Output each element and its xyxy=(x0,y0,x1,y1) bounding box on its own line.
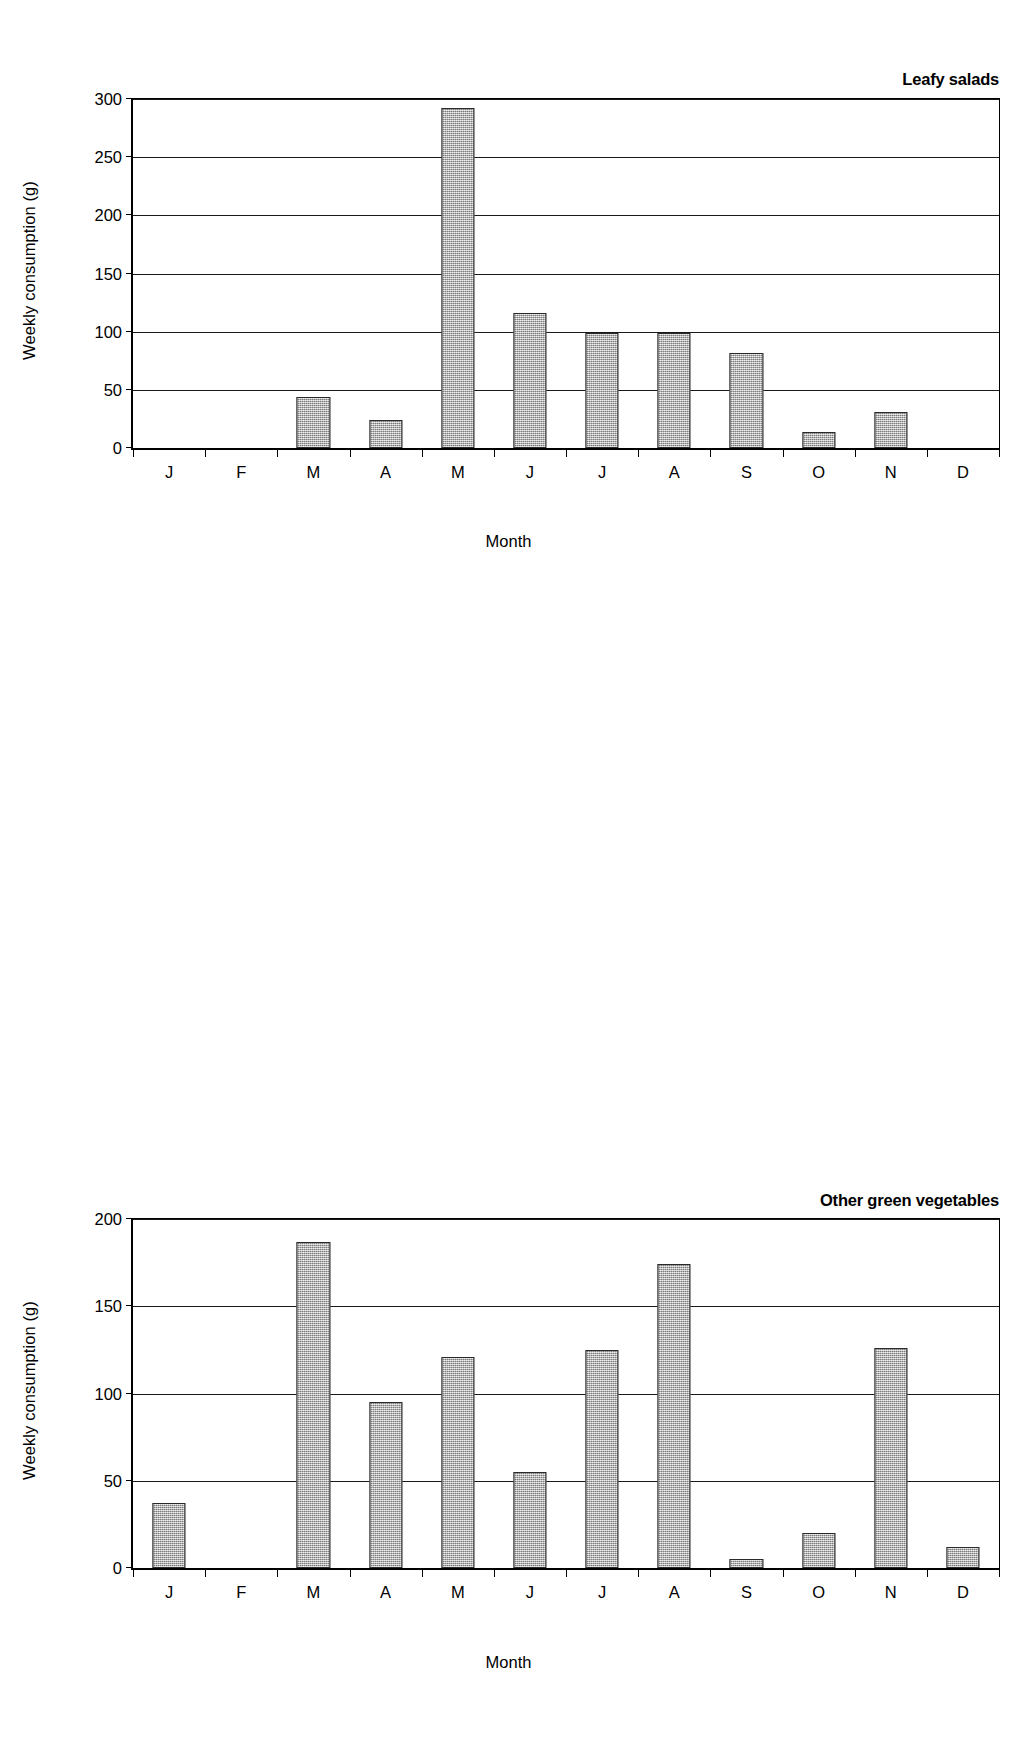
bar-slot xyxy=(566,99,638,448)
y-tick-mark xyxy=(126,447,133,448)
x-tick-label: J xyxy=(494,464,566,481)
y-tick-label: 250 xyxy=(94,149,122,166)
y-tick-mark xyxy=(126,331,133,332)
x-tick-label: O xyxy=(783,464,855,481)
y-tick-label: 150 xyxy=(94,265,122,282)
x-axis-categories: JFMAMJJASOND xyxy=(133,464,999,481)
bar[interactable] xyxy=(441,108,474,448)
x-tick-mark xyxy=(205,448,206,457)
x-tick-label: M xyxy=(422,464,494,481)
x-tick-mark xyxy=(422,448,423,457)
bar[interactable] xyxy=(297,397,330,448)
figure-page: Leafy salads Weekly consumption (g) 0501… xyxy=(0,0,1017,1738)
x-tick-label: N xyxy=(855,464,927,481)
x-tick-label: J xyxy=(566,464,638,481)
plot-area: 050100150200250300JFMAMJJASOND xyxy=(131,98,1000,450)
x-tick-label: S xyxy=(710,464,782,481)
bar[interactable] xyxy=(369,420,402,448)
chart-title: Leafy salads xyxy=(902,70,999,89)
x-tick-mark xyxy=(277,448,278,457)
bar-slot xyxy=(133,99,205,448)
bar-slot xyxy=(638,99,710,448)
x-tick-label: D xyxy=(927,464,999,481)
bar-slot xyxy=(494,99,566,448)
chart-leafy-salads: Leafy salads Weekly consumption (g) 0501… xyxy=(0,0,1017,565)
bar[interactable] xyxy=(513,313,546,448)
y-axis-label: Weekly consumption (g) xyxy=(14,95,44,445)
bar-slot xyxy=(350,99,422,448)
bar[interactable] xyxy=(586,333,619,448)
x-axis-label: Month xyxy=(0,532,1017,551)
x-tick-mark xyxy=(783,448,784,457)
x-tick-mark xyxy=(494,448,495,457)
y-tick-label: 200 xyxy=(94,207,122,224)
bar-slot xyxy=(205,99,277,448)
x-tick-mark xyxy=(638,448,639,457)
x-tick-label: A xyxy=(350,464,422,481)
y-tick-mark xyxy=(126,98,133,99)
x-tick-label: A xyxy=(638,464,710,481)
plot-area-wrap: 050100150200250300JFMAMJJASOND xyxy=(131,98,1000,450)
bar[interactable] xyxy=(730,353,763,448)
x-tick-label: F xyxy=(205,464,277,481)
bar[interactable] xyxy=(802,432,835,448)
x-tick-mark xyxy=(133,448,134,457)
bar[interactable] xyxy=(874,412,907,448)
chart-other-green-vegetables: Other green vegetables Weekly consumptio… xyxy=(0,565,1017,1130)
x-tick-label: M xyxy=(277,464,349,481)
bar-slot xyxy=(422,99,494,448)
x-tick-mark xyxy=(566,448,567,457)
bar-slot xyxy=(277,99,349,448)
bar-slot xyxy=(710,99,782,448)
y-tick-label: 300 xyxy=(94,91,122,108)
y-tick-label: 100 xyxy=(94,323,122,340)
bar-slot xyxy=(855,99,927,448)
bar-slot xyxy=(783,99,855,448)
y-tick-mark xyxy=(126,389,133,390)
y-tick-label: 50 xyxy=(104,382,122,399)
x-tick-mark xyxy=(927,448,928,457)
y-tick-mark xyxy=(126,273,133,274)
chart-total-green-vegetables: Total green vegetables Weekly consumptio… xyxy=(0,1130,1017,1695)
x-tick-mark xyxy=(999,448,1000,457)
bar[interactable] xyxy=(658,333,691,448)
bar-series xyxy=(133,99,999,448)
bar-slot xyxy=(927,99,999,448)
x-tick-label: J xyxy=(133,464,205,481)
y-tick-label: 0 xyxy=(113,440,122,457)
y-tick-mark xyxy=(126,214,133,215)
y-tick-mark xyxy=(126,156,133,157)
x-tick-marks xyxy=(133,448,999,457)
x-tick-mark xyxy=(855,448,856,457)
x-tick-mark xyxy=(350,448,351,457)
x-tick-mark xyxy=(710,448,711,457)
